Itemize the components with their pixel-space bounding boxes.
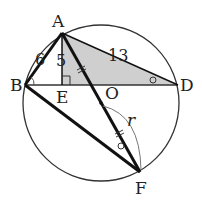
label-A: A (51, 11, 65, 31)
length-AB: 6 (35, 50, 45, 69)
segment-BF (25, 85, 140, 172)
length-r: r (127, 110, 136, 130)
length-AD: 13 (108, 46, 128, 65)
label-E: E (56, 87, 68, 107)
label-D: D (180, 75, 194, 95)
center-point-O (99, 101, 103, 105)
length-AE: 5 (56, 51, 66, 70)
label-O: O (105, 83, 119, 103)
geometry-figure: A B D E O F 6 5 13 r (0, 0, 202, 200)
angle-mark-F (118, 143, 124, 149)
label-F: F (135, 178, 147, 198)
label-B: B (10, 75, 23, 95)
